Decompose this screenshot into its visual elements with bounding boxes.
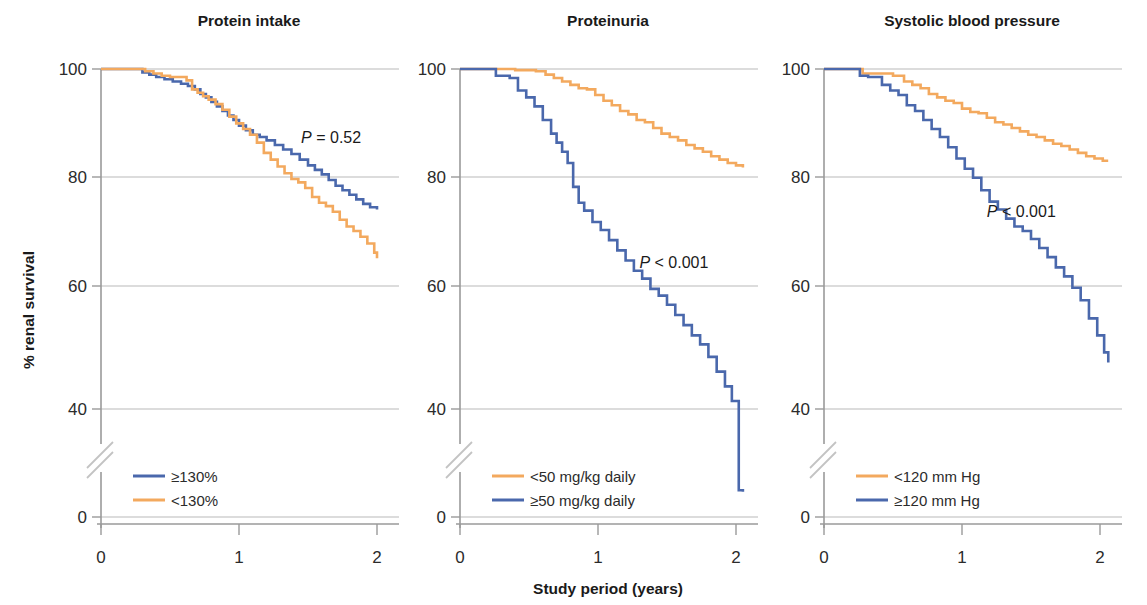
gridlines (460, 69, 758, 517)
x-axis-title: Study period (years) (533, 580, 683, 597)
x-tick-label-1: 1 (234, 548, 243, 567)
km-curve-series-1 (460, 69, 743, 168)
x-tick-label-0: 0 (819, 548, 828, 567)
kaplan-meier-figure: 1008060400012Protein intakeP = 0.52≥130%… (0, 0, 1147, 605)
legend: <50 mg/kg daily≥50 mg/kg daily (492, 468, 636, 509)
x-tick-label-0: 0 (455, 548, 464, 567)
x-tick-label-2: 2 (372, 548, 381, 567)
y-tick-label-40: 40 (427, 400, 446, 419)
y-axis-title: % renal survival (20, 251, 37, 369)
km-curve-series-2 (824, 69, 1108, 363)
km-curve-series-2 (101, 69, 377, 258)
y-tick-label-40: 40 (791, 400, 810, 419)
panel-title: Protein intake (198, 12, 301, 29)
panel-protein-intake: 1008060400012Protein intakeP = 0.52≥130%… (59, 12, 399, 567)
legend-label-1: ≥130% (171, 468, 218, 485)
legend: <120 mm Hg≥120 mm Hg (856, 468, 980, 509)
p-value-annotation: P = 0.52 (301, 129, 361, 146)
panel-title: Systolic blood pressure (884, 12, 1060, 29)
x-tick-label-1: 1 (957, 548, 966, 567)
x-tick-label-0: 0 (96, 548, 105, 567)
p-value-annotation: P < 0.001 (987, 203, 1056, 220)
y-tick-label-80: 80 (68, 168, 87, 187)
panel-title: Proteinuria (567, 12, 649, 29)
x-tick-label-1: 1 (593, 548, 602, 567)
y-tick-label-80: 80 (791, 168, 810, 187)
x-tick-label-2: 2 (1095, 548, 1104, 567)
y-tick-label-0: 0 (437, 508, 446, 527)
legend-label-1: <120 mm Hg (894, 468, 980, 485)
y-tick-label-60: 60 (68, 277, 87, 296)
y-tick-label-40: 40 (68, 400, 87, 419)
y-tick-label-0: 0 (801, 508, 810, 527)
y-tick-label-100: 100 (782, 60, 810, 79)
legend-label-2: ≥50 mg/kg daily (530, 492, 635, 509)
y-tick-label-100: 100 (418, 60, 446, 79)
panel-systolic-blood-pressure: 1008060400012Systolic blood pressureP < … (782, 12, 1122, 567)
y-tick-label-100: 100 (59, 60, 87, 79)
gridlines (824, 69, 1122, 517)
km-curve-series-2 (460, 69, 743, 492)
y-tick-label-80: 80 (427, 168, 446, 187)
y-axis-break-icon (810, 442, 836, 478)
p-value-annotation: P < 0.001 (639, 254, 708, 271)
y-axis-break-icon (446, 442, 472, 478)
legend-label-1: <50 mg/kg daily (530, 468, 636, 485)
panel-proteinuria: 1008060400012ProteinuriaP < 0.001<50 mg/… (418, 12, 758, 567)
y-tick-label-60: 60 (791, 277, 810, 296)
x-tick-label-2: 2 (731, 548, 740, 567)
legend-label-2: <130% (171, 492, 218, 509)
y-tick-label-0: 0 (78, 508, 87, 527)
legend-label-2: ≥120 mm Hg (894, 492, 980, 509)
y-tick-label-60: 60 (427, 277, 446, 296)
legend: ≥130%<130% (133, 468, 218, 509)
y-axis-break-icon (87, 442, 113, 478)
km-curve-series-1 (824, 69, 1107, 162)
